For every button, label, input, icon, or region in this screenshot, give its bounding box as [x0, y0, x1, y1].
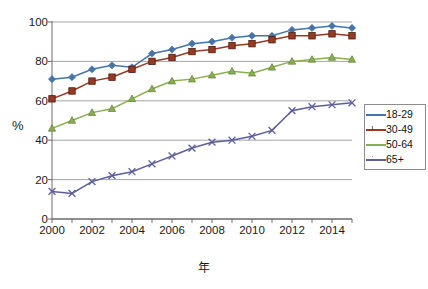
legend-key-icon: [366, 108, 386, 121]
data-point: [248, 32, 255, 39]
series-18-29: [48, 22, 355, 82]
legend-key-icon: [366, 138, 386, 151]
y-axis-tick-label: 80: [18, 55, 48, 67]
data-point: [328, 22, 335, 29]
data-point: [129, 66, 135, 72]
x-axis-tick-label: 2006: [159, 224, 185, 236]
data-point: [88, 66, 95, 73]
legend-key-icon: [366, 153, 386, 166]
data-point: [289, 33, 295, 39]
series-30-49: [49, 31, 355, 102]
data-point: [169, 153, 176, 160]
data-point: [188, 40, 195, 47]
data-point: [228, 34, 235, 41]
legend-label: 65+: [386, 153, 404, 166]
data-point: [149, 58, 155, 64]
data-point: [109, 74, 115, 80]
data-point: [209, 46, 215, 52]
series-line: [52, 34, 352, 99]
data-point: [309, 33, 315, 39]
data-point: [269, 37, 275, 43]
series-50-64: [48, 54, 355, 132]
data-point: [308, 24, 315, 31]
data-point: [372, 141, 373, 145]
x-axis-tick-label: 2012: [279, 224, 305, 236]
x-axis-tick-label: 2002: [79, 224, 105, 236]
x-axis-tick-label: 2000: [39, 224, 65, 236]
data-point: [149, 160, 156, 167]
data-point: [69, 88, 75, 94]
line-chart: 020406080100 200020022004200620082010201…: [0, 0, 428, 289]
data-point: [89, 78, 95, 84]
chart-legend: 18-2930-4950-6465+: [364, 104, 426, 170]
x-axis-tick-label: 2014: [319, 224, 345, 236]
x-axis-tick-label: 2004: [119, 224, 145, 236]
x-axis-tick-labels: 20002002200420062008201020122014: [0, 224, 428, 244]
legend-label: 30-49: [386, 123, 413, 136]
data-point: [372, 111, 373, 115]
legend-item-65+[interactable]: 65+: [366, 152, 423, 167]
data-point: [348, 24, 355, 31]
y-axis-tick-label: 40: [18, 134, 48, 146]
y-axis-tick-label: 60: [18, 95, 48, 107]
data-point: [349, 33, 355, 39]
series-line: [52, 26, 352, 79]
legend-key-icon: [366, 123, 386, 136]
data-point: [108, 62, 115, 69]
data-point: [48, 76, 55, 83]
legend-item-50-64[interactable]: 50-64: [366, 137, 423, 152]
legend-label: 18-29: [386, 108, 413, 121]
legend-label: 50-64: [386, 138, 413, 151]
data-point: [169, 54, 175, 60]
x-axis-tick-label: 2010: [239, 224, 265, 236]
y-axis-title: %: [12, 118, 24, 133]
data-point: [249, 40, 255, 46]
legend-item-18-29[interactable]: 18-29: [366, 107, 423, 122]
data-point: [208, 38, 215, 45]
data-point: [189, 48, 195, 54]
data-point: [229, 42, 235, 48]
legend-item-30-49[interactable]: 30-49: [366, 122, 423, 137]
data-point: [68, 74, 75, 81]
y-axis-tick-label: 20: [18, 174, 48, 186]
y-axis-tick-label: 100: [18, 16, 48, 28]
x-axis-title: 年: [198, 258, 210, 275]
data-point: [49, 96, 55, 102]
y-axis-tick-labels: 020406080100: [14, 0, 48, 289]
data-point: [329, 31, 335, 37]
x-axis-tick-label: 2008: [199, 224, 225, 236]
data-point: [168, 46, 175, 53]
